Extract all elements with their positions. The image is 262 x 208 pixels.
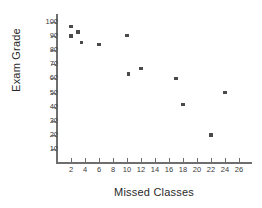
data-point — [223, 91, 226, 94]
data-point — [174, 77, 177, 80]
x-tick-mark — [127, 158, 128, 164]
y-tick-mark — [51, 50, 58, 51]
x-tick-label-26: 26 — [231, 166, 247, 174]
y-tick-40: 40 — [0, 107, 58, 108]
x-tick-mark — [71, 158, 72, 164]
data-point — [97, 43, 100, 46]
data-point — [69, 25, 72, 28]
data-point — [125, 34, 128, 37]
x-tick-mark — [113, 158, 114, 164]
x-tick-mark — [85, 158, 86, 164]
data-point — [181, 103, 184, 106]
data-point — [80, 41, 83, 44]
y-tick-70: 70 — [0, 64, 58, 65]
data-point — [139, 67, 142, 70]
y-tick-50: 50 — [0, 93, 58, 94]
scatter-plot-figure: 102030405060708090100 246810121416182022… — [0, 0, 262, 208]
x-tick-mark — [211, 158, 212, 164]
y-tick-30: 30 — [0, 121, 58, 122]
data-point — [76, 30, 79, 33]
y-tick-mark — [51, 121, 58, 122]
y-tick-mark — [51, 107, 58, 108]
x-axis-title: Missed Classes — [56, 186, 252, 198]
x-tick-mark — [169, 158, 170, 164]
y-axis-title: Exam Grade — [10, 0, 22, 120]
data-point — [127, 72, 130, 75]
x-tick-mark — [239, 158, 240, 164]
y-tick-80: 80 — [0, 50, 58, 51]
y-tick-mark — [51, 149, 58, 150]
y-tick-mark — [51, 135, 58, 136]
x-tick-mark — [183, 158, 184, 164]
y-tick-100: 100 — [0, 22, 58, 23]
x-tick-mark — [141, 158, 142, 164]
y-tick-mark — [51, 64, 58, 65]
y-tick-mark — [51, 93, 58, 94]
y-tick-mark — [51, 36, 58, 37]
y-tick-10: 10 — [0, 149, 58, 150]
data-point — [69, 34, 72, 37]
x-tick-mark — [155, 158, 156, 164]
x-tick-mark — [197, 158, 198, 164]
y-tick-90: 90 — [0, 36, 58, 37]
y-tick-20: 20 — [0, 135, 58, 136]
y-tick-mark — [51, 22, 58, 23]
y-tick-mark — [51, 78, 58, 79]
x-tick-mark — [225, 158, 226, 164]
x-tick-mark — [99, 158, 100, 164]
y-tick-60: 60 — [0, 78, 58, 79]
data-point — [209, 133, 212, 136]
